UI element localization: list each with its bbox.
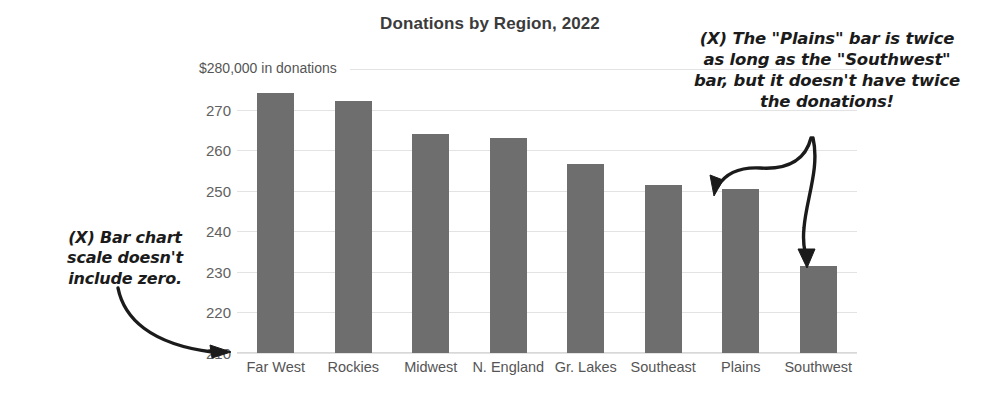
annotation-scale-line: (X) Bar chart [30,228,220,248]
annotation-bar-length-line: as long as the "Southwest" [668,49,986,70]
annotation-scale-line: include zero. [30,269,220,289]
bar [645,185,682,353]
x-axis-category-label: Far West [246,359,305,375]
bar [257,93,294,353]
y-axis-tick-label: 260 [185,142,231,159]
y-axis-tick-label: 210 [185,345,231,362]
x-axis-category-label: Southwest [784,359,852,375]
bar [490,138,527,353]
bar [412,134,449,353]
bar [567,164,604,353]
y-axis-ticks: 210220230240250260270 [176,69,231,353]
annotation-bar-length-line: bar, but it doesn't have twice [668,70,986,91]
chart-title: Donations by Region, 2022 [300,14,680,34]
annotation-scale-line: scale doesn't [30,248,220,268]
bar [722,189,759,353]
annotation-scale-zero: (X) Bar chartscale doesn'tinclude zero. [30,228,220,289]
x-axis-labels: Far WestRockiesMidwestN. EnglandGr. Lake… [237,359,857,383]
y-axis-tick-label: 270 [185,101,231,118]
gridline [237,353,857,354]
annotation-bar-length: (X) The "Plains" bar is twiceas long as … [668,28,986,112]
x-axis-category-label: Plains [721,359,761,375]
x-axis-category-label: Rockies [327,359,379,375]
annotation-bar-length-line: the donations! [668,91,986,112]
x-axis-category-label: N. England [472,359,544,375]
x-axis-category-label: Southeast [631,359,696,375]
y-axis-tick-label: 250 [185,182,231,199]
x-axis-category-label: Gr. Lakes [555,359,617,375]
x-axis-category-label: Midwest [404,359,457,375]
bar [800,266,837,353]
annotation-bar-length-line: (X) The "Plains" bar is twice [668,28,986,49]
chart-container: Donations by Region, 2022 $280,000 in do… [0,0,987,396]
bar [335,101,372,353]
y-axis-tick-label: 220 [185,304,231,321]
